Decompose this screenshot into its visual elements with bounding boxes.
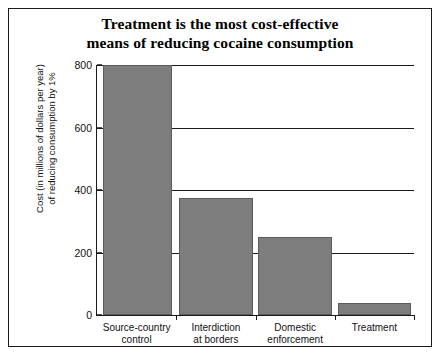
y-axis-label-line-1: Cost (in millions of dollars per year) [34,39,46,239]
y-tick-label-600: 600 [74,122,92,134]
y-tick-label-200: 200 [74,247,92,259]
y-tick-mark-right-400 [408,190,414,191]
x-tick-mark-1 [176,315,177,320]
chart-title-line-2: means of reducing cocaine consumption [9,33,431,52]
x-tick-mark-end [414,315,415,320]
y-tick-label-0: 0 [86,309,92,321]
y-tick-mark-200 [97,252,102,253]
x-category-label-2-line-1: enforcement [247,334,343,346]
chart-title: Treatment is the most cost-effective mea… [9,14,431,52]
y-tick-label-800: 800 [74,59,92,71]
bar-3[interactable] [338,303,412,316]
y-tick-mark-0 [97,314,102,315]
y-axis-label-line-2: of reducing consumption by 1% [45,39,57,239]
y-tick-mark-right-800 [408,65,414,66]
y-tick-mark-right-200 [408,253,414,254]
x-tick-mark-2 [256,315,257,320]
bar-0[interactable] [103,65,172,315]
y-axis-label: Cost (in millions of dollars per year) o… [34,39,57,239]
x-category-label-3: Treatment [326,322,422,334]
bar-2[interactable] [258,237,332,315]
x-category-label-3-line-0: Treatment [326,322,422,334]
y-tick-mark-right-600 [408,128,414,129]
y-tick-mark-600 [97,127,102,128]
y-tick-mark-800 [97,64,102,65]
plot-area: 0200400600800Source-countrycontrolInterd… [96,65,414,316]
x-tick-mark-3 [335,315,336,320]
y-tick-mark-400 [97,189,102,190]
bar-1[interactable] [179,198,253,315]
y-tick-label-400: 400 [74,184,92,196]
figure-frame: Treatment is the most cost-effective mea… [8,8,432,347]
chart-title-line-1: Treatment is the most cost-effective [9,14,431,33]
